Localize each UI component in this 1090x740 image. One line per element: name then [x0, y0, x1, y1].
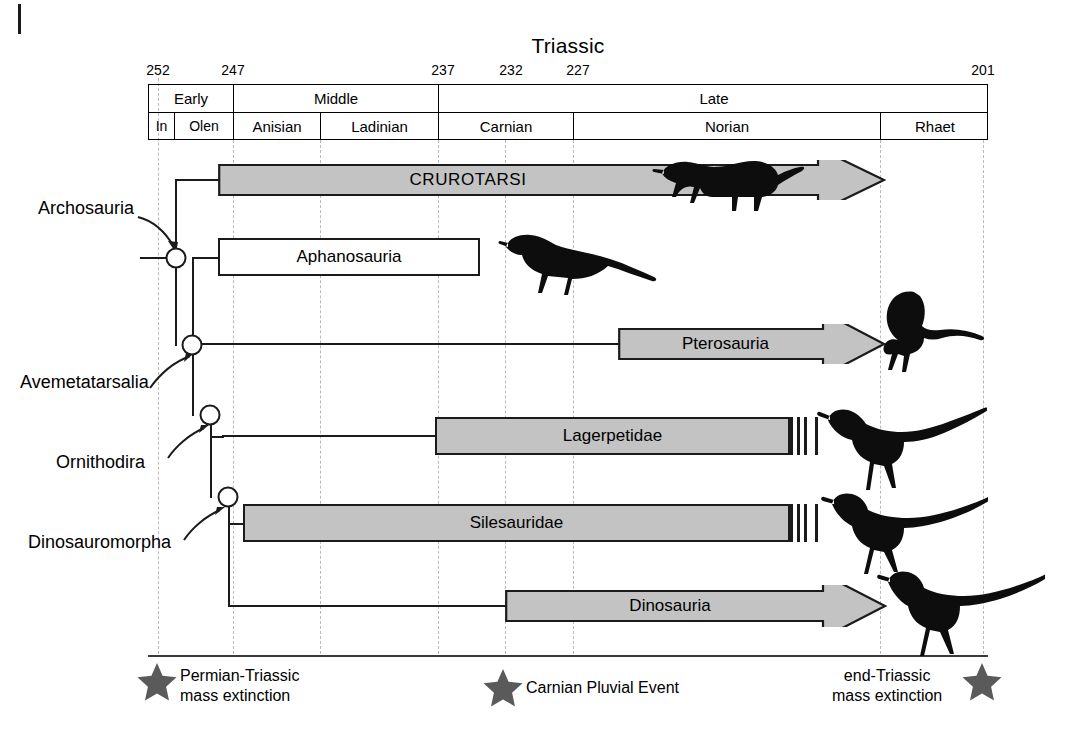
bar-pterosauria: Pterosauria [618, 324, 886, 364]
star-icon-permian-triassic [137, 662, 177, 702]
avemetatarsalia-upper [192, 258, 194, 346]
baseline-rule [148, 655, 988, 657]
phylogeny-timescale-figure: Triassic 252 247 237 232 227 201 Early M… [0, 0, 1090, 740]
guide-227 [573, 140, 574, 654]
node-ornithodira [200, 405, 221, 426]
bar-label-dinosauria: Dinosauria [505, 585, 835, 627]
event-line2: mass extinction [832, 686, 942, 706]
label-archosauria: Archosauria [38, 198, 134, 219]
guide-247 [233, 140, 234, 654]
period-title: Triassic [148, 34, 988, 58]
dinosauria-silhouette-icon [870, 568, 1045, 668]
guide-237 [438, 140, 439, 654]
stage-induan: In [149, 113, 175, 139]
pterosauria-silhouette-icon [868, 288, 998, 383]
label-avemetatarsalia: Avemetatarsalia [20, 372, 149, 393]
crurotarsi-branch [175, 179, 220, 181]
age-tick-237: 237 [431, 62, 454, 78]
stage-ladinian: Ladinian [321, 113, 439, 139]
epoch-middle: Middle [234, 85, 439, 112]
timescale-table: Early Middle Late In Olen Anisian Ladini… [148, 84, 988, 140]
star-icon-carnian-pluvial [483, 668, 523, 708]
aphanosauria-stub [192, 257, 220, 259]
lagerpetidae-branch [222, 435, 437, 437]
age-tick-252: 252 [146, 62, 169, 78]
timescale-epoch-row: Early Middle Late [149, 85, 987, 113]
epoch-early: Early [149, 85, 234, 112]
guide-242 [320, 140, 321, 654]
bar-lagerpetidae: Lagerpetidae [435, 417, 790, 455]
silesauridae-silhouette-icon [818, 488, 988, 578]
aphanosauria-silhouette-icon [498, 225, 663, 300]
event-line2: mass extinction [180, 686, 299, 706]
age-tick-227: 227 [566, 62, 589, 78]
bar-label-crurotarsi: CRUROTARSI [218, 160, 718, 200]
epoch-late: Late [439, 85, 989, 112]
event-label-carnian-pluvial: Carnian Pluvial Event [526, 678, 679, 698]
dinosauria-branch [228, 605, 508, 607]
stage-rhaetian: Rhaet [881, 113, 989, 139]
stage-olenekian: Olen [175, 113, 234, 139]
star-icon-end-triassic [962, 662, 1002, 702]
event-line1: Permian-Triassic [180, 667, 299, 684]
dinosauromorpha-pointer-arrow [180, 506, 230, 544]
event-label-permian-triassic: Permian-Triassic mass extinction [180, 666, 299, 705]
node-avemetatarsalia [182, 335, 203, 356]
event-label-end-triassic: end-Triassic mass extinction [832, 666, 942, 705]
age-tick-247: 247 [221, 62, 244, 78]
crurotarsi-silhouette-icon [650, 145, 810, 220]
timescale-stage-row: In Olen Anisian Ladinian Carnian Norian … [149, 113, 987, 139]
age-tick-232: 232 [499, 62, 522, 78]
bar-label-aphanosauria: Aphanosauria [297, 247, 402, 267]
guide-232 [505, 140, 506, 654]
stage-norian: Norian [574, 113, 881, 139]
stage-anisian: Anisian [234, 113, 321, 139]
bar-dinosauria: Dinosauria [505, 585, 887, 627]
ornithodira-pointer-arrow [164, 424, 214, 462]
label-ornithodira: Ornithodira [56, 452, 145, 473]
stage-carnian: Carnian [439, 113, 574, 139]
age-tick-201: 201 [971, 62, 994, 78]
page-edge-mark [18, 4, 21, 34]
event-line1: Carnian Pluvial Event [526, 679, 679, 696]
bar-silesauridae: Silesauridae [243, 504, 790, 542]
pterosauria-branch [192, 343, 620, 345]
node-archosauria [166, 248, 187, 269]
silesauridae-range-hatches [790, 504, 820, 542]
bar-aphanosauria: Aphanosauria [218, 238, 480, 276]
node-dinosauromorpha [218, 487, 239, 508]
bar-label-pterosauria: Pterosauria [618, 324, 833, 364]
avemetatarsalia-pointer-arrow [146, 352, 200, 392]
label-dinosauromorpha: Dinosauromorpha [28, 532, 171, 553]
bar-label-lagerpetidae: Lagerpetidae [563, 426, 662, 446]
bar-label-silesauridae: Silesauridae [470, 513, 564, 533]
event-line1: end-Triassic [844, 667, 931, 684]
